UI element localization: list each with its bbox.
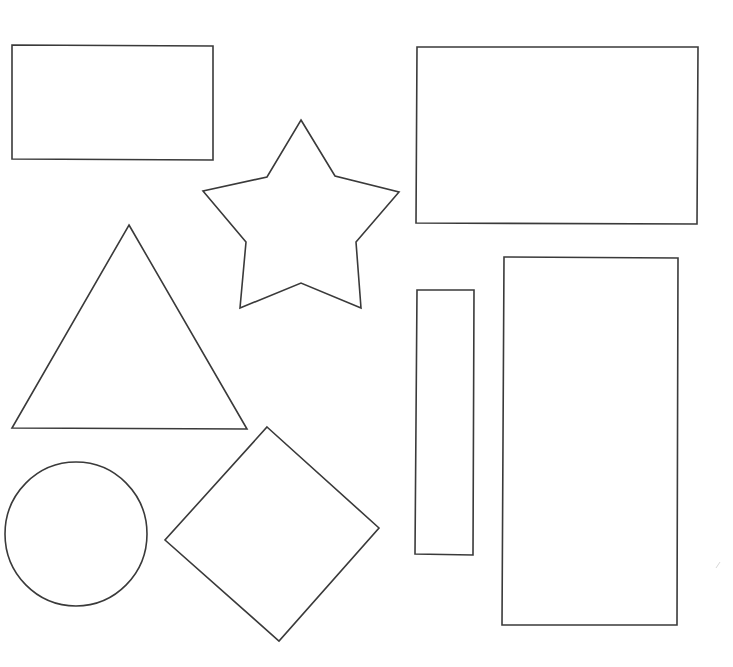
star xyxy=(203,120,399,308)
rectangle-top-left xyxy=(12,45,213,160)
rectangle-narrow xyxy=(415,290,474,555)
rectangle-tall xyxy=(502,257,678,625)
shapes-canvas xyxy=(0,0,733,667)
circle xyxy=(5,462,147,606)
triangle xyxy=(12,225,247,429)
diamond xyxy=(165,427,379,641)
rectangle-top-right xyxy=(416,47,698,224)
scan-artifact-mark xyxy=(716,562,720,568)
